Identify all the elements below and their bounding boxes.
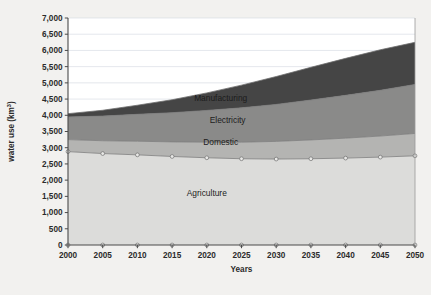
- x-tick-label-2015: 2015: [163, 251, 182, 260]
- series-label-domestic: Domestic: [203, 137, 238, 147]
- x-tick-label-2020: 2020: [198, 251, 217, 260]
- series-label-agriculture: Agriculture: [187, 188, 227, 198]
- y-tick-label-6500: 6,500: [42, 30, 63, 39]
- x-tick-label-2050: 2050: [406, 251, 425, 260]
- y-tick-label-0: 0: [58, 241, 63, 250]
- marker-agriculture-2005: [101, 152, 105, 156]
- y-axis-title-text: water use (km3): [6, 101, 16, 163]
- y-axis-title: water use (km3): [6, 101, 16, 163]
- marker-agriculture-2025: [240, 157, 244, 161]
- y-tick-label-3000: 3,000: [42, 144, 63, 153]
- series-label-manufacturing: Manufacturing: [194, 93, 247, 103]
- y-tick-label-5500: 5,500: [42, 63, 63, 72]
- marker-agriculture-2040: [344, 156, 348, 160]
- x-tick-label-2025: 2025: [232, 251, 251, 260]
- marker-agriculture-2010: [136, 153, 140, 157]
- x-tick-label-2040: 2040: [336, 251, 355, 260]
- x-axis-title: Years: [231, 265, 253, 274]
- y-tick-label-2500: 2,500: [42, 160, 63, 169]
- x-tick-label-2045: 2045: [371, 251, 390, 260]
- x-tick-label-2010: 2010: [128, 251, 147, 260]
- y-tick-label-7000: 7,000: [42, 14, 63, 23]
- y-tick-label-6000: 6,000: [42, 46, 63, 55]
- x-tick-label-2035: 2035: [302, 251, 321, 260]
- marker-agriculture-2035: [309, 157, 313, 161]
- y-tick-label-1500: 1,500: [42, 192, 63, 201]
- y-tick-label-1000: 1,000: [42, 208, 63, 217]
- marker-agriculture-2020: [205, 156, 209, 160]
- stacked-area-chart: 05001,0001,5002,0002,5003,0003,5004,0004…: [0, 0, 431, 295]
- y-tick-label-3500: 3,500: [42, 127, 63, 136]
- y-tick-label-500: 500: [49, 225, 63, 234]
- x-tick-label-2005: 2005: [94, 251, 113, 260]
- marker-agriculture-2015: [170, 155, 174, 159]
- y-tick-label-2000: 2,000: [42, 176, 63, 185]
- chart-canvas: 05001,0001,5002,0002,5003,0003,5004,0004…: [0, 0, 431, 295]
- marker-agriculture-2045: [378, 155, 382, 159]
- marker-agriculture-2030: [274, 157, 278, 161]
- y-tick-label-4500: 4,500: [42, 95, 63, 104]
- x-tick-label-2000: 2000: [59, 251, 78, 260]
- y-tick-label-4000: 4,000: [42, 111, 63, 120]
- area-agriculture: [68, 152, 415, 245]
- y-tick-label-5000: 5,000: [42, 79, 63, 88]
- x-tick-label-2030: 2030: [267, 251, 286, 260]
- series-label-electricity: Electricity: [210, 115, 247, 125]
